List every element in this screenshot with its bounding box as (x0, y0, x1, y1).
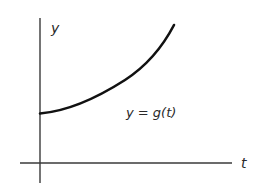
curve-label: y = g(t) (125, 105, 176, 120)
t-axis-label: t (241, 155, 247, 171)
function-graph: y t y = g(t) (0, 0, 262, 184)
y-axis-label: y (50, 20, 60, 36)
curve-g (40, 25, 174, 114)
graph-canvas: y t y = g(t) (0, 0, 262, 184)
